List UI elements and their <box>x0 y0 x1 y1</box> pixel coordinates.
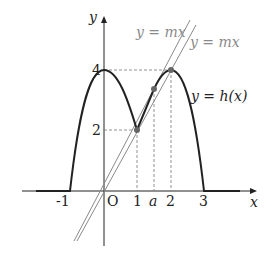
point-a <box>151 86 157 92</box>
line-label-1: y = mx <box>135 24 186 40</box>
line-label-2: y = mx <box>189 34 240 50</box>
x-tick-a: a <box>149 193 157 209</box>
y-axis-label: y <box>88 9 98 25</box>
x-tick-3: 3 <box>199 193 208 209</box>
curve-label: y = h(x) <box>190 88 247 104</box>
diagram-canvas: y x O -1 1 a 2 3 2 4 y = h(x) y = mx y =… <box>0 0 273 261</box>
origin-label: O <box>107 193 118 209</box>
y-tick-2: 2 <box>92 122 101 138</box>
x-axis-label: x <box>250 194 258 210</box>
x-tick-1: 1 <box>133 193 142 209</box>
point-1-2 <box>134 127 140 133</box>
y-tick-4: 4 <box>92 62 101 78</box>
point-2-4 <box>168 67 174 73</box>
x-tick-2: 2 <box>166 193 175 209</box>
y-axis-arrow-icon <box>101 16 107 23</box>
x-tick-neg1: -1 <box>56 193 70 209</box>
